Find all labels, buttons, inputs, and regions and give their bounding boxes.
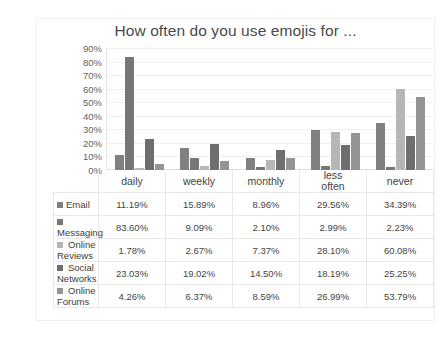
legend-swatch-icon [57,242,63,248]
data-cell: 2.10% [233,216,300,239]
data-cell: 2.67% [166,239,233,262]
bar[interactable] [311,130,320,170]
data-table-body: dailyweeklymonthlylessoftenneverEmail11.… [54,170,434,308]
bar-group [107,48,172,170]
data-cell: 2.23% [367,216,434,239]
table-row: OnlineReviews1.78%2.67%7.37%28.10%60.08% [54,239,434,262]
table-header-row: dailyweeklymonthlylessoftennever [54,170,434,193]
legend-cell: SocialNetworks [54,262,99,285]
category-header-cell: weekly [166,170,233,193]
bar[interactable] [145,139,154,170]
data-table: dailyweeklymonthlylessoftenneverEmail11.… [53,170,434,308]
bar[interactable] [331,132,340,170]
data-cell: 1.78% [99,239,166,262]
data-cell: 14.50% [233,262,300,285]
y-axis-tick: 30% [83,125,102,134]
legend-swatch-icon [57,265,63,271]
data-cell: 34.39% [367,193,434,216]
legend-label: Email [66,199,90,210]
y-axis-tick: 20% [83,138,102,147]
data-cell: 9.09% [166,216,233,239]
y-axis-tick: 40% [83,111,102,120]
bar[interactable] [115,155,124,170]
bar-group [237,48,302,170]
bar[interactable] [276,150,285,170]
data-cell: 15.89% [166,193,233,216]
bar[interactable] [266,160,275,170]
data-cell: 7.37% [233,239,300,262]
category-header-cell: monthly [233,170,300,193]
data-cell: 28.10% [300,239,367,262]
legend-cell: OnlineForums [54,285,99,308]
legend-cell: OnlineReviews [54,239,99,262]
bar[interactable] [190,158,199,170]
plot-area [106,48,433,170]
legend-label: Messaging [57,227,103,238]
legend-cell: Email [54,193,99,216]
bar-groups [107,48,433,170]
legend-swatch-icon [57,219,63,225]
legend-swatch-icon [57,288,63,294]
bar[interactable] [416,97,425,170]
table-row: Email11.19%15.89%8.96%29.56%34.39% [54,193,434,216]
data-cell: 53.79% [367,285,434,308]
legend-swatch-icon [57,202,63,208]
bar-group [172,48,237,170]
data-cell: 83.60% [99,216,166,239]
y-axis: 90%80%70%60%50%40%30%20%10%0% [60,48,104,170]
data-cell: 8.96% [233,193,300,216]
bar[interactable] [220,161,229,170]
bar-group [303,48,368,170]
table-row: Messaging83.60%9.09%2.10%2.99%2.23% [54,216,434,239]
y-axis-tick: 70% [83,71,102,80]
data-cell: 29.56% [300,193,367,216]
category-header-cell: lessoften [300,170,367,193]
bar[interactable] [376,123,385,170]
bar[interactable] [246,158,255,170]
y-axis-tick: 80% [83,57,102,66]
data-cell: 19.02% [166,262,233,285]
data-cell: 11.19% [99,193,166,216]
bar[interactable] [125,57,134,170]
bar-group [368,48,433,170]
data-cell: 25.25% [367,262,434,285]
table-row: OnlineForums4.26%6.37%8.59%26.99%53.79% [54,285,434,308]
category-header-cell: never [367,170,434,193]
data-cell: 8.59% [233,285,300,308]
y-axis-tick: 10% [83,152,102,161]
bar[interactable] [286,158,295,170]
table-row: SocialNetworks23.03%19.02%14.50%18.19%25… [54,262,434,285]
y-axis-tick: 50% [83,98,102,107]
y-axis-tick: 90% [83,44,102,53]
chart-title: How often do you use emojis for ... [36,22,435,40]
data-cell: 6.37% [166,285,233,308]
plot-wrapper: 90%80%70%60%50%40%30%20%10%0% [60,48,433,170]
data-cell: 18.19% [300,262,367,285]
bar[interactable] [180,148,189,170]
data-cell: 4.26% [99,285,166,308]
bar[interactable] [210,144,219,170]
y-axis-tick: 60% [83,84,102,93]
data-cell: 26.99% [300,285,367,308]
bar[interactable] [351,133,360,170]
bar[interactable] [396,89,405,170]
data-cell: 2.99% [300,216,367,239]
bar[interactable] [406,136,415,170]
data-cell: 60.08% [367,239,434,262]
legend-cell: Messaging [54,216,99,239]
table-corner-cell [54,170,99,193]
bar[interactable] [341,145,350,170]
category-header-cell: daily [99,170,166,193]
data-cell: 23.03% [99,262,166,285]
